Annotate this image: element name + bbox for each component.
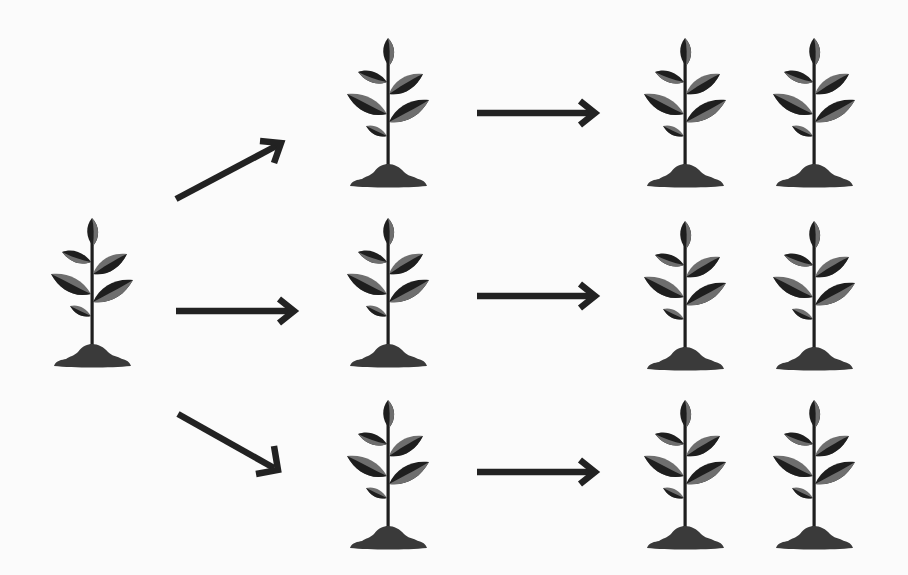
gen1-plant-middle bbox=[346, 216, 430, 368]
sapling-icon bbox=[50, 216, 134, 368]
sapling-icon bbox=[643, 219, 727, 371]
arrow-up-right bbox=[170, 135, 290, 205]
arrow-icon bbox=[477, 457, 602, 487]
parent-plant bbox=[50, 216, 134, 368]
sapling-icon bbox=[643, 398, 727, 550]
arrow-icon bbox=[174, 408, 289, 478]
sapling-icon bbox=[643, 36, 727, 188]
sapling-icon bbox=[772, 398, 856, 550]
arrow-down-right bbox=[174, 408, 289, 478]
gen2-plant-middle-left bbox=[643, 219, 727, 371]
arrow-right-middle bbox=[477, 281, 602, 311]
sapling-icon bbox=[346, 216, 430, 368]
gen2-plant-bottom-right bbox=[772, 398, 856, 550]
gen2-plant-top-right bbox=[772, 36, 856, 188]
arrow-icon bbox=[170, 135, 290, 205]
arrow-icon bbox=[176, 296, 301, 326]
gen2-plant-middle-right bbox=[772, 219, 856, 371]
arrow-icon bbox=[477, 98, 602, 128]
sapling-icon bbox=[772, 36, 856, 188]
arrow-right-parent-mid bbox=[176, 296, 301, 326]
sapling-icon bbox=[346, 36, 430, 188]
arrow-right-top bbox=[477, 98, 602, 128]
sapling-icon bbox=[772, 219, 856, 371]
arrow-right-bottom bbox=[477, 457, 602, 487]
gen2-plant-bottom-left bbox=[643, 398, 727, 550]
gen1-plant-bottom bbox=[346, 398, 430, 550]
gen1-plant-top bbox=[346, 36, 430, 188]
gen2-plant-top-left bbox=[643, 36, 727, 188]
arrow-icon bbox=[477, 281, 602, 311]
sapling-icon bbox=[346, 398, 430, 550]
